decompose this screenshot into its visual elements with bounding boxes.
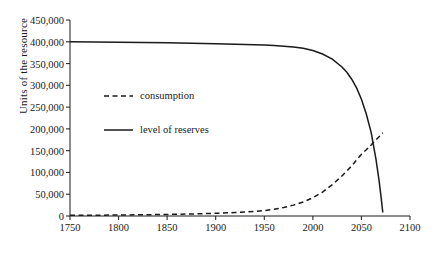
x-axis-ticks xyxy=(70,216,410,220)
legend-label-consumption: consumption xyxy=(140,90,194,101)
legend-label-level-of-reserves: level of reserves xyxy=(140,124,209,135)
series-line-level-of-reserves xyxy=(70,42,383,213)
resource-depletion-chart: Units of the resource 0 50,000 100,000 1… xyxy=(0,0,444,255)
y-axis-ticks xyxy=(66,20,70,216)
axis-lines xyxy=(70,20,410,216)
legend xyxy=(104,96,133,130)
plot-canvas xyxy=(0,0,444,255)
series-line-consumption xyxy=(70,133,383,216)
